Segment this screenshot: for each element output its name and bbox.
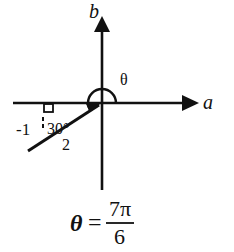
theta-label: θ: [120, 71, 128, 88]
formula-equals: =: [88, 209, 102, 235]
formula-numerator: 7π: [109, 196, 131, 221]
formula-lhs: θ: [70, 210, 83, 236]
reference-angle-label: 30°: [47, 120, 69, 137]
theta-formula: θ = 7π 6: [70, 196, 134, 249]
horizontal-axis: [13, 95, 199, 111]
x-coordinate-label: -1: [16, 120, 30, 139]
polar-angle-diagram: a b θ -1 30° 2 θ = 7π 6: [0, 0, 234, 252]
formula-denominator: 6: [114, 224, 125, 249]
axis-arrow-a-icon: [182, 95, 199, 111]
right-angle-marker: [44, 104, 53, 112]
axis-label-b: b: [89, 0, 99, 22]
axis-label-a: a: [203, 91, 213, 113]
hypotenuse-label: 2: [62, 136, 70, 153]
